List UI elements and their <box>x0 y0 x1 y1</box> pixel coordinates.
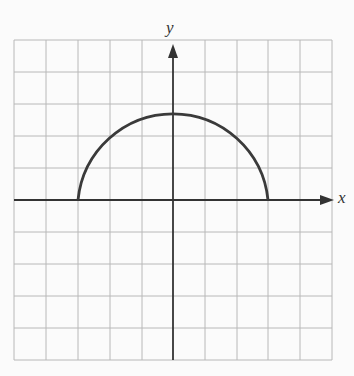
y-axis-arrow-icon <box>168 44 178 58</box>
x-axis-label: x <box>338 188 346 208</box>
y-axis-label: y <box>166 18 174 38</box>
graph-canvas <box>0 0 354 376</box>
axes <box>14 48 322 360</box>
